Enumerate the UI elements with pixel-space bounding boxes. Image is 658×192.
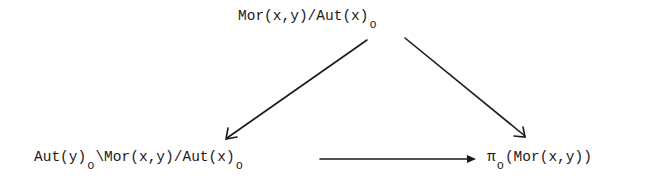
arrowhead-horizontal [467,155,476,163]
arrow-top-to-bottom-right [405,38,525,137]
arrow-top-to-bottom-left [226,40,367,139]
arrows-layer [0,0,658,192]
